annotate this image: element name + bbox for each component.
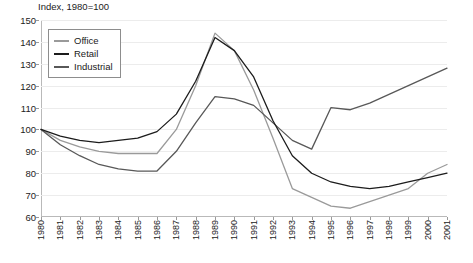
y-tick-mark — [36, 86, 39, 87]
x-tick-mark — [60, 217, 61, 220]
x-tick-label: 1980 — [36, 220, 46, 240]
x-tick-label: 2001 — [442, 220, 452, 240]
x-tick-label: 1983 — [94, 220, 104, 240]
x-tick-mark — [428, 217, 429, 220]
legend-swatch-icon — [54, 40, 69, 42]
x-tick-label: 1986 — [152, 220, 162, 240]
legend-label: Office — [74, 34, 99, 47]
y-tick-mark — [36, 108, 39, 109]
series-line-industrial — [41, 68, 447, 171]
y-tick-label: 60 — [25, 212, 36, 223]
x-tick-label: 1994 — [307, 220, 317, 240]
legend-item-retail[interactable]: Retail — [54, 47, 113, 60]
x-tick-label: 2000 — [423, 220, 433, 240]
x-tick-label: 1998 — [384, 220, 394, 240]
x-tick-mark — [292, 217, 293, 220]
y-tick-mark — [36, 64, 39, 65]
y-tick-mark — [36, 151, 39, 152]
y-tick-mark — [36, 20, 39, 21]
x-tick-label: 1999 — [403, 220, 413, 240]
x-tick-mark — [41, 217, 42, 220]
y-tick-label: 100 — [20, 124, 36, 135]
x-tick-mark — [273, 217, 274, 220]
x-axis: 1980198119821983198419851986198719881989… — [41, 220, 447, 263]
x-tick-label: 1992 — [268, 220, 278, 240]
x-tick-label: 1993 — [287, 220, 297, 240]
y-tick-mark — [36, 217, 39, 218]
x-tick-label: 1989 — [210, 220, 220, 240]
legend-swatch-icon — [54, 53, 69, 55]
y-tick-label: 90 — [25, 146, 36, 157]
x-tick-label: 1990 — [229, 220, 239, 240]
y-tick-label: 140 — [20, 36, 36, 47]
x-tick-label: 1985 — [133, 220, 143, 240]
x-tick-label: 1995 — [326, 220, 336, 240]
legend-swatch-icon — [54, 66, 69, 68]
x-tick-mark — [254, 217, 255, 220]
y-axis: 60708090100110120130140150 — [0, 20, 36, 217]
y-tick-label: 120 — [20, 80, 36, 91]
x-tick-mark — [447, 217, 448, 220]
x-tick-label: 1996 — [345, 220, 355, 240]
legend-item-office[interactable]: Office — [54, 34, 113, 47]
x-tick-label: 1981 — [55, 220, 65, 240]
x-tick-mark — [118, 217, 119, 220]
y-tick-label: 130 — [20, 58, 36, 69]
chart-legend: OfficeRetailIndustrial — [48, 29, 121, 78]
x-tick-mark — [331, 217, 332, 220]
y-tick-mark — [36, 173, 39, 174]
legend-label: Industrial — [74, 60, 113, 73]
x-tick-mark — [138, 217, 139, 220]
chart-title: Index, 1980=100 — [38, 1, 109, 12]
x-tick-mark — [370, 217, 371, 220]
x-tick-mark — [157, 217, 158, 220]
y-tick-mark — [36, 42, 39, 43]
y-tick-mark — [36, 195, 39, 196]
x-tick-mark — [389, 217, 390, 220]
x-tick-mark — [312, 217, 313, 220]
x-tick-mark — [215, 217, 216, 220]
x-tick-mark — [408, 217, 409, 220]
x-tick-mark — [80, 217, 81, 220]
x-tick-label: 1991 — [249, 220, 259, 240]
x-tick-mark — [234, 217, 235, 220]
y-tick-label: 70 — [25, 190, 36, 201]
y-tick-label: 80 — [25, 168, 36, 179]
line-chart: Index, 1980=100 607080901001101201301401… — [0, 0, 473, 263]
y-tick-label: 150 — [20, 15, 36, 26]
x-tick-label: 1997 — [365, 220, 375, 240]
y-tick-mark — [36, 129, 39, 130]
x-tick-label: 1984 — [113, 220, 123, 240]
x-tick-mark — [196, 217, 197, 220]
x-tick-label: 1988 — [191, 220, 201, 240]
x-tick-mark — [99, 217, 100, 220]
y-tick-label: 110 — [21, 102, 36, 113]
x-tick-label: 1982 — [75, 220, 85, 240]
x-tick-label: 1987 — [171, 220, 181, 240]
x-tick-mark — [176, 217, 177, 220]
x-tick-mark — [350, 217, 351, 220]
legend-item-industrial[interactable]: Industrial — [54, 60, 113, 73]
legend-label: Retail — [74, 47, 98, 60]
